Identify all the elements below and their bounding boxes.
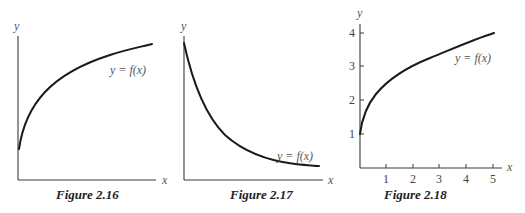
x-tick-label: 4 <box>463 172 469 186</box>
y-tick-label: 3 <box>349 59 355 73</box>
curve <box>360 33 494 134</box>
figure-caption: Figure 2.16 <box>55 187 119 202</box>
figure-caption: Figure 2.18 <box>383 187 447 202</box>
x-axis-label: x <box>327 173 334 187</box>
figure-2-18: y x 1 2 3 4 1 2 3 4 5 y = f(x) Fi <box>349 6 513 202</box>
x-tick-label: 3 <box>436 172 442 186</box>
x-tick-label: 5 <box>490 172 496 186</box>
x-axis-label: x <box>506 160 513 174</box>
x-axis-label: x <box>161 173 168 187</box>
figure-2-16: y x y = f(x) Figure 2.16 <box>13 19 168 202</box>
y-axis-label: y <box>356 6 363 20</box>
x-tick-label: 1 <box>383 172 389 186</box>
curve-label: y = f(x) <box>454 51 491 65</box>
figure-caption: Figure 2.17 <box>229 187 293 202</box>
curve <box>184 43 319 166</box>
curve-label: y = f(x) <box>276 149 313 163</box>
curve <box>19 44 152 149</box>
y-tick-label: 1 <box>349 127 355 141</box>
curve-label: y = f(x) <box>109 63 146 77</box>
y-axis-label: y <box>180 19 187 33</box>
x-tick-label: 2 <box>410 172 416 186</box>
figure-2-17: y x y = f(x) Figure 2.17 <box>180 19 334 202</box>
figures-canvas: y x y = f(x) Figure 2.16 y x y = f(x) Fi… <box>0 0 525 213</box>
y-tick-label: 4 <box>349 26 355 40</box>
x-ticks: 1 2 3 4 5 <box>383 164 496 186</box>
y-axis-label: y <box>13 19 20 33</box>
y-tick-label: 2 <box>349 93 355 107</box>
